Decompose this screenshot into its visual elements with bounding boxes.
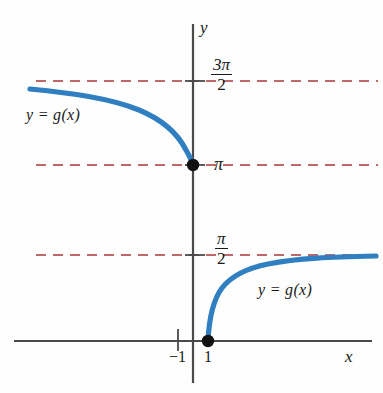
x-axis-label: x — [345, 347, 353, 367]
fraction-numerator: 3π — [211, 56, 232, 74]
axes-lines — [14, 24, 372, 383]
tick-marks — [178, 81, 205, 351]
endpoint-dot-left — [187, 159, 199, 171]
y-tick-label-3pi-over-2: 3π 2 — [211, 56, 232, 93]
curve-left-branch — [30, 89, 193, 165]
graph-canvas — [0, 0, 383, 393]
x-tick-label-minus-1: −1 — [169, 348, 186, 366]
fraction-denominator: 2 — [215, 75, 228, 93]
curve-label-left: y = g(x) — [26, 106, 80, 124]
graph-figure: y x 3π 2 π π 2 −1 1 y = g(x) y = g(x) — [0, 0, 383, 393]
y-tick-label-pi-over-2: π 2 — [215, 230, 228, 267]
y-axis-label: y — [200, 18, 208, 38]
fraction-numerator: π — [215, 230, 228, 248]
endpoint-dot-right — [202, 335, 214, 347]
curve-label-right: y = g(x) — [258, 281, 312, 299]
y-tick-label-pi: π — [214, 154, 223, 175]
fraction-denominator: 2 — [215, 249, 228, 267]
x-tick-label-1: 1 — [204, 348, 212, 366]
asymptote-lines — [36, 81, 378, 255]
